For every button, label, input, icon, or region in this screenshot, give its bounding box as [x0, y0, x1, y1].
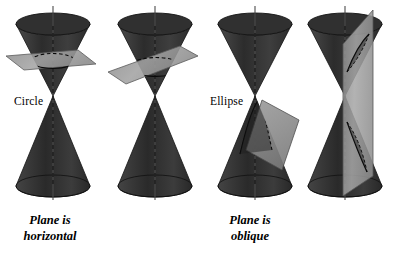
cutting-plane-horizontal: [6, 50, 96, 70]
panel-ellipse: Ellipse Plane is oblique: [100, 0, 200, 253]
panel-circle: Circle Plane is horizontal: [0, 0, 100, 253]
ellipse-diagram-svg: [100, 0, 200, 253]
panel-hyperbola: Hyperbola Plane is vertical: [299, 0, 399, 253]
caption-circle-line1: Plane is: [0, 213, 100, 229]
conic-label-circle: Circle: [14, 96, 43, 108]
parabola-diagram-svg: [200, 0, 300, 253]
conic-sections-figure: Circle Plane is horizontal: [0, 0, 399, 253]
caption-circle-line2: horizontal: [0, 229, 100, 245]
caption-circle: Plane is horizontal: [0, 213, 100, 244]
hyperbola-diagram-svg: [299, 0, 399, 253]
panel-parabola: Parabola Plane is parallel to nappe: [200, 0, 300, 253]
